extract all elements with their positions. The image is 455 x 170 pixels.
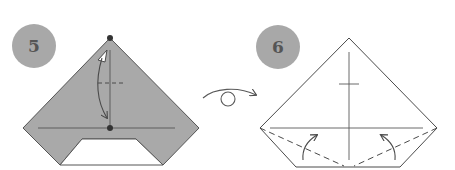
turn-over-icon [203,89,256,106]
step-5-target-dot [107,125,113,131]
step-5-diagram [23,35,199,165]
step-6-paper [260,38,437,167]
step-5-top-dot [107,35,113,41]
origami-diagram: 5 6 [0,0,455,170]
step-6-diagram [260,38,437,167]
diagram-canvas [0,0,455,170]
